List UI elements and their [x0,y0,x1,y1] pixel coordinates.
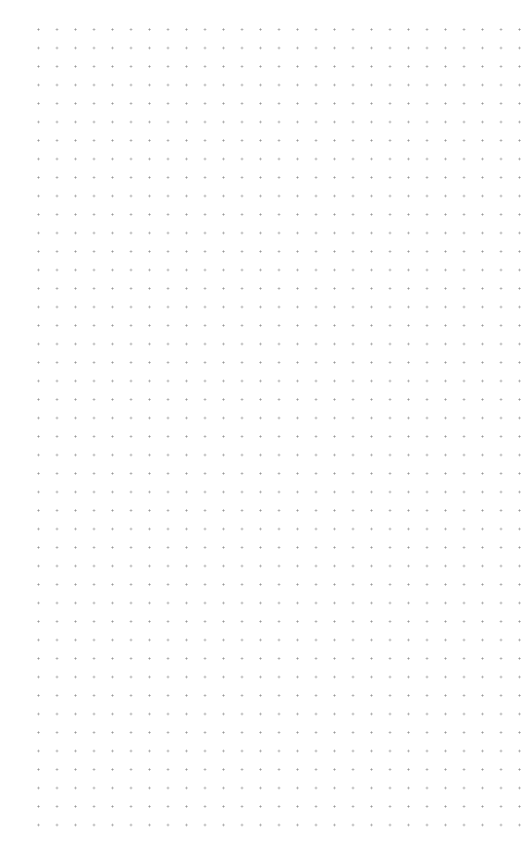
canvas-margin-bottom [0,842,526,867]
dot-grid-canvas[interactable] [0,0,526,867]
canvas-margin-left [0,0,30,867]
canvas-margin-top [0,0,526,22]
